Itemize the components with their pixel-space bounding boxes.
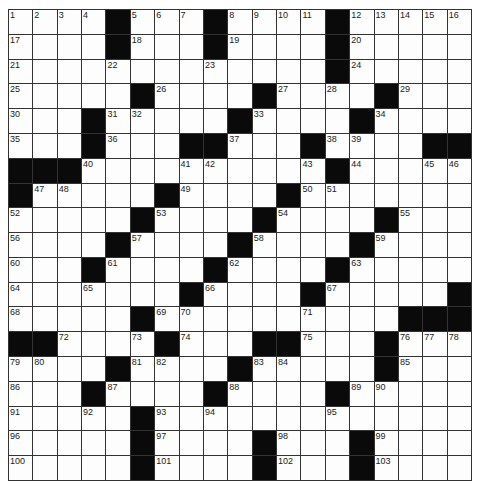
grid-cell[interactable]: 84: [277, 357, 300, 381]
grid-cell[interactable]: 10: [277, 10, 300, 34]
grid-cell[interactable]: [277, 407, 300, 431]
grid-cell[interactable]: [375, 184, 398, 208]
grid-cell[interactable]: [82, 357, 105, 381]
grid-cell[interactable]: 102: [277, 456, 300, 480]
grid-cell[interactable]: [228, 307, 251, 331]
grid-cell[interactable]: [82, 35, 105, 59]
grid-cell[interactable]: 93: [155, 407, 178, 431]
grid-cell[interactable]: 72: [58, 332, 81, 356]
grid-cell[interactable]: 5: [131, 10, 154, 34]
grid-cell[interactable]: 83: [253, 357, 276, 381]
grid-cell[interactable]: [106, 184, 129, 208]
grid-cell[interactable]: [423, 456, 446, 480]
grid-cell[interactable]: [106, 456, 129, 480]
grid-cell[interactable]: 7: [180, 10, 203, 34]
grid-cell[interactable]: [253, 60, 276, 84]
grid-cell[interactable]: 16: [448, 10, 471, 34]
grid-cell[interactable]: [228, 159, 251, 183]
grid-cell[interactable]: [180, 208, 203, 232]
grid-cell[interactable]: [106, 407, 129, 431]
grid-cell[interactable]: 41: [180, 159, 203, 183]
grid-cell[interactable]: [58, 134, 81, 158]
grid-cell[interactable]: [253, 283, 276, 307]
grid-cell[interactable]: [350, 84, 373, 108]
grid-cell[interactable]: [253, 134, 276, 158]
grid-cell[interactable]: 56: [9, 233, 32, 257]
grid-cell[interactable]: [448, 258, 471, 282]
grid-cell[interactable]: [33, 208, 56, 232]
grid-cell[interactable]: [448, 382, 471, 406]
grid-cell[interactable]: [277, 233, 300, 257]
grid-cell[interactable]: 28: [326, 84, 349, 108]
grid-cell[interactable]: [423, 382, 446, 406]
grid-cell[interactable]: 91: [9, 407, 32, 431]
grid-cell[interactable]: 85: [399, 357, 422, 381]
grid-cell[interactable]: [228, 456, 251, 480]
grid-cell[interactable]: 15: [423, 10, 446, 34]
grid-cell[interactable]: [228, 208, 251, 232]
grid-cell[interactable]: [58, 233, 81, 257]
grid-cell[interactable]: [228, 407, 251, 431]
grid-cell[interactable]: [155, 159, 178, 183]
grid-cell[interactable]: [204, 208, 227, 232]
grid-cell[interactable]: 6: [155, 10, 178, 34]
grid-cell[interactable]: [375, 35, 398, 59]
grid-cell[interactable]: 48: [58, 184, 81, 208]
grid-cell[interactable]: [33, 307, 56, 331]
grid-cell[interactable]: [375, 159, 398, 183]
grid-cell[interactable]: 46: [448, 159, 471, 183]
grid-cell[interactable]: 67: [326, 283, 349, 307]
grid-cell[interactable]: [33, 134, 56, 158]
grid-cell[interactable]: [180, 382, 203, 406]
grid-cell[interactable]: 42: [204, 159, 227, 183]
grid-cell[interactable]: [350, 184, 373, 208]
grid-cell[interactable]: [375, 134, 398, 158]
grid-cell[interactable]: [155, 60, 178, 84]
grid-cell[interactable]: [375, 258, 398, 282]
grid-cell[interactable]: [204, 431, 227, 455]
grid-cell[interactable]: [155, 134, 178, 158]
grid-cell[interactable]: [423, 109, 446, 133]
grid-cell[interactable]: [58, 109, 81, 133]
grid-cell[interactable]: [375, 60, 398, 84]
grid-cell[interactable]: [82, 184, 105, 208]
grid-cell[interactable]: 65: [82, 283, 105, 307]
grid-cell[interactable]: 103: [375, 456, 398, 480]
grid-cell[interactable]: [301, 258, 324, 282]
grid-cell[interactable]: [228, 283, 251, 307]
grid-cell[interactable]: [33, 233, 56, 257]
grid-cell[interactable]: [375, 407, 398, 431]
grid-cell[interactable]: [448, 208, 471, 232]
grid-cell[interactable]: [228, 184, 251, 208]
grid-cell[interactable]: [106, 208, 129, 232]
grid-cell[interactable]: [82, 307, 105, 331]
grid-cell[interactable]: [448, 184, 471, 208]
grid-cell[interactable]: 77: [423, 332, 446, 356]
grid-cell[interactable]: [448, 35, 471, 59]
grid-cell[interactable]: 9: [253, 10, 276, 34]
grid-cell[interactable]: 54: [277, 208, 300, 232]
grid-cell[interactable]: 80: [33, 357, 56, 381]
grid-cell[interactable]: [350, 208, 373, 232]
grid-cell[interactable]: 22: [106, 60, 129, 84]
grid-cell[interactable]: 60: [9, 258, 32, 282]
grid-cell[interactable]: [399, 382, 422, 406]
grid-cell[interactable]: [33, 60, 56, 84]
grid-cell[interactable]: [375, 307, 398, 331]
grid-cell[interactable]: 37: [228, 134, 251, 158]
grid-cell[interactable]: [423, 35, 446, 59]
grid-cell[interactable]: 2: [33, 10, 56, 34]
grid-cell[interactable]: 1: [9, 10, 32, 34]
grid-cell[interactable]: 55: [399, 208, 422, 232]
grid-cell[interactable]: [399, 184, 422, 208]
grid-cell[interactable]: [58, 382, 81, 406]
grid-cell[interactable]: [180, 357, 203, 381]
grid-cell[interactable]: [180, 431, 203, 455]
grid-cell[interactable]: 87: [106, 382, 129, 406]
grid-cell[interactable]: [399, 134, 422, 158]
grid-cell[interactable]: [106, 159, 129, 183]
grid-cell[interactable]: [58, 357, 81, 381]
grid-cell[interactable]: [448, 431, 471, 455]
grid-cell[interactable]: [448, 407, 471, 431]
grid-cell[interactable]: [253, 159, 276, 183]
